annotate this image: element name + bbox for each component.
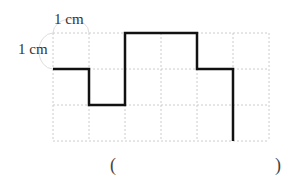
unit-label-left: 1 cm [18,42,48,57]
step-path [53,33,233,141]
grid-figure [0,0,291,191]
unit-label-top: 1 cm [54,12,84,27]
answer-paren-open: ( [110,156,116,174]
grid-lines [53,33,269,141]
answer-paren-close: ) [275,156,281,174]
